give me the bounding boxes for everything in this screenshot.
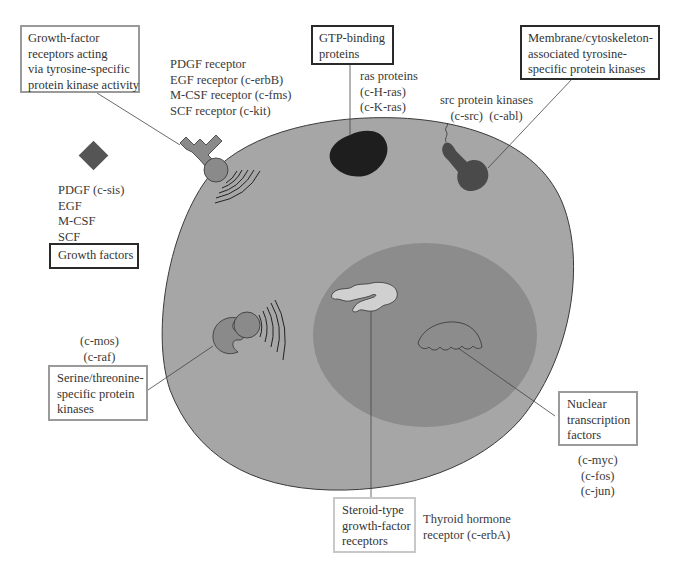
receptor-list-label: PDGF receptor EGF receptor (c-erbB) M-CS… (170, 57, 292, 119)
steroid-receptors-box: Steroid-type growth-factor receptors (333, 497, 416, 553)
growth-factors-box: Growth factors (49, 243, 139, 269)
thyroid-receptor-label: Thyroid hormone receptor (c-erbA) (423, 512, 511, 543)
ras-list-label: ras proteins (c-H-ras) (c-K-ras) (360, 69, 418, 116)
nuclear-transcription-factors-box: Nuclear transcription factors (558, 391, 638, 446)
growth-factor-receptor (180, 135, 228, 182)
membrane-kinases-box: Membrane/cytoskeleton- associated tyrosi… (520, 25, 660, 80)
nuclear-list-label: (c-myc) (c-fos) (c-jun) (578, 453, 618, 500)
growth-factor-diamond (79, 141, 109, 171)
serine-threonine-kinases-box: Serine/threonine- specific protein kinas… (48, 365, 148, 421)
growth-factor-list-label: PDGF (c-sis) EGF M-CSF SCF (58, 183, 124, 245)
growth-factor-receptors-box: Growth-factor receptors acting via tyros… (20, 25, 140, 93)
src-list-label: src protein kinases (c-src) (c-abl) (440, 93, 533, 124)
serine-list-label: (c-mos) (c-raf) (80, 334, 119, 365)
gtp-binding-proteins-box: GTP-binding proteins (311, 25, 394, 65)
